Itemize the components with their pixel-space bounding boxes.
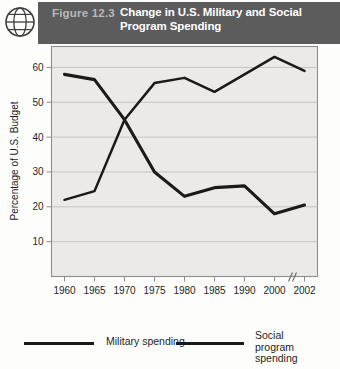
figure-container: Figure 12.3 Change in U.S. Military and … bbox=[0, 0, 340, 369]
y-tick-label: 10 bbox=[32, 236, 44, 247]
x-tick-label: 2002 bbox=[293, 285, 316, 296]
x-tick-label: 1990 bbox=[233, 285, 256, 296]
y-tick-label: 50 bbox=[32, 97, 44, 108]
legend-swatch-military bbox=[24, 342, 94, 345]
x-axis-ticks bbox=[65, 277, 305, 282]
x-tick-label: 1970 bbox=[113, 285, 136, 296]
header-band: Figure 12.3 Change in U.S. Military and … bbox=[38, 2, 340, 44]
y-axis-title: Percentage of U.S. Budget bbox=[9, 101, 20, 220]
chart-legend: Military spending Social program spendin… bbox=[0, 300, 340, 360]
y-tick-label: 40 bbox=[32, 132, 44, 143]
x-tick-label: 1960 bbox=[53, 285, 76, 296]
figure-number: Figure 12.3 bbox=[52, 7, 115, 19]
x-tick-label: 1980 bbox=[173, 285, 196, 296]
y-tick-label: 20 bbox=[32, 201, 44, 212]
x-tick-label: 2000 bbox=[263, 285, 286, 296]
x-tick-label: 1965 bbox=[83, 285, 106, 296]
y-tick-label: 30 bbox=[32, 166, 44, 177]
x-tick-label: 1975 bbox=[143, 285, 166, 296]
figure-header: Figure 12.3 Change in U.S. Military and … bbox=[0, 2, 340, 44]
legend-label-social: Social program spending bbox=[255, 330, 298, 365]
legend-label-military: Military spending bbox=[106, 336, 185, 348]
x-axis-tick-labels: 196019651970197519801985199020002002 bbox=[53, 285, 316, 296]
globe-icon bbox=[4, 6, 36, 38]
x-tick-label: 1985 bbox=[203, 285, 226, 296]
y-axis-ticks bbox=[47, 67, 52, 241]
figure-title: Change in U.S. Military and Social Progr… bbox=[120, 6, 334, 33]
y-tick-label: 60 bbox=[32, 62, 44, 73]
line-chart: 102030405060 196019651970197519801985199… bbox=[0, 44, 340, 296]
y-axis-tick-labels: 102030405060 bbox=[32, 62, 44, 247]
legend-swatch-social bbox=[176, 342, 244, 345]
chart-plot-area: 102030405060 196019651970197519801985199… bbox=[0, 44, 340, 296]
